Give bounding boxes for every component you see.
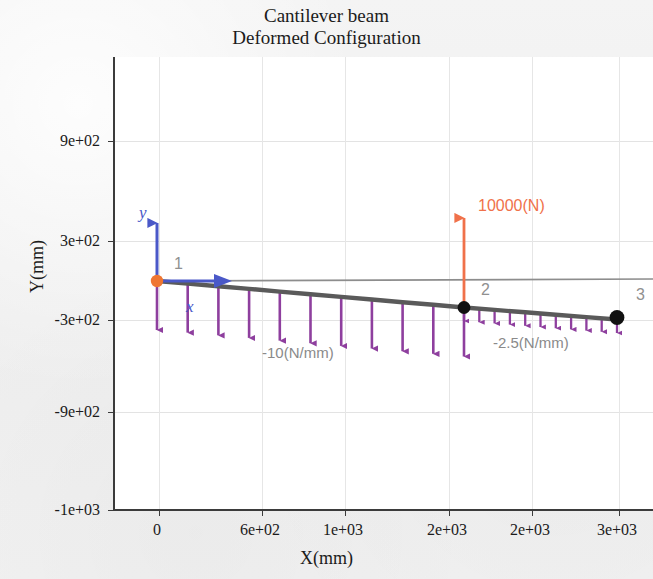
x-axis-ticklabel: 2e+03	[427, 521, 467, 539]
gridline-vertical	[345, 57, 346, 509]
plot-area	[113, 57, 653, 511]
figure-title: Cantilever beam Deformed Configuration	[0, 5, 653, 50]
gridline-horizontal	[115, 241, 653, 242]
y-axis-tick	[108, 412, 115, 413]
x-axis-tick	[449, 509, 450, 516]
x-axis-ticklabel: 1e+03	[323, 521, 363, 539]
x-axis-ticklabel: 3e+03	[597, 521, 637, 539]
gridline-vertical	[262, 57, 263, 509]
figure-title-line-1: Cantilever beam	[0, 5, 653, 27]
gridline-horizontal	[115, 320, 653, 321]
y-axis-ticklabel: -9e+02	[0, 403, 100, 421]
y-axis-tick	[108, 320, 115, 321]
y-axis-ticklabel: 9e+02	[0, 132, 100, 150]
gridline-vertical	[159, 57, 160, 509]
y-axis-tick	[108, 241, 115, 242]
node-label-2: 2	[481, 281, 490, 299]
gridline-horizontal	[115, 141, 653, 142]
x-axis-tick	[619, 509, 620, 516]
node-label-3: 3	[636, 286, 645, 304]
y-axis-ticklabel: -3e+02	[0, 311, 100, 329]
local-y-axis-label: y	[139, 203, 147, 223]
x-axis-ticklabel: 0	[153, 521, 161, 539]
gridline-vertical	[449, 57, 450, 509]
distributed-load-label-2: -2.5(N/mm)	[493, 334, 569, 351]
x-axis-ticklabel: 6e+02	[240, 521, 280, 539]
x-axis-tick	[159, 509, 160, 516]
x-axis-tick	[345, 509, 346, 516]
x-axis-ticklabel: 2e+03	[510, 521, 550, 539]
gridline-vertical	[532, 57, 533, 509]
local-x-axis-label: x	[186, 297, 194, 317]
y-axis-label: Y(mm)	[27, 207, 48, 327]
y-axis-tick	[108, 510, 115, 511]
node-label-1: 1	[174, 255, 183, 273]
y-axis-ticklabel: -1e+03	[0, 501, 100, 519]
gridline-horizontal	[115, 412, 653, 413]
x-axis-label: X(mm)	[0, 548, 653, 569]
y-axis-ticklabel: 3e+02	[0, 232, 100, 250]
cantilever-beam-figure: Cantilever beam Deformed Configuration 9…	[0, 0, 653, 579]
point-force-label: 10000(N)	[478, 197, 545, 215]
y-axis-tick	[108, 141, 115, 142]
figure-title-line-2: Deformed Configuration	[0, 27, 653, 49]
x-axis-tick	[262, 509, 263, 516]
distributed-load-label-1: -10(N/mm)	[262, 344, 334, 361]
x-axis-tick	[532, 509, 533, 516]
gridline-vertical	[619, 57, 620, 509]
